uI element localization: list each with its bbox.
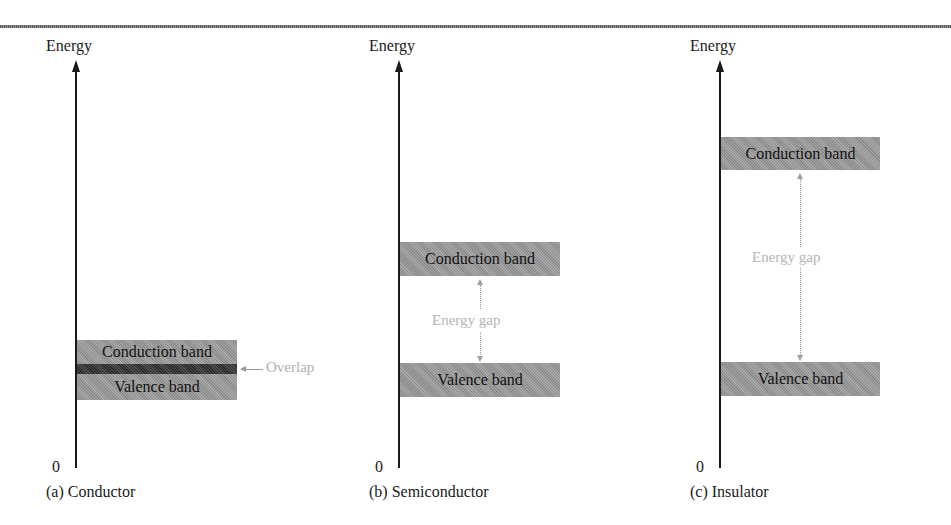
gap-dotted-line (800, 179, 801, 357)
origin-label: 0 (375, 458, 383, 476)
gap-arrow-down-icon (797, 355, 803, 361)
energy-axis-label: Energy (369, 37, 415, 55)
caption-insulator: (c) Insulator (690, 483, 769, 501)
origin-label: 0 (52, 458, 60, 476)
energy-axis-label: Energy (690, 37, 736, 55)
caption-conductor: (a) Conductor (46, 483, 135, 501)
energy-gap-label: Energy gap (432, 310, 500, 331)
top-rule (0, 25, 951, 28)
conduction-band: Conduction band (400, 242, 560, 276)
origin-label: 0 (696, 458, 704, 476)
conduction-band: Conduction band (77, 340, 237, 364)
conduction-band: Conduction band (721, 137, 880, 170)
caption-semiconductor: (b) Semiconductor (369, 483, 489, 501)
overlap-region (77, 364, 237, 374)
overlap-label: Overlap (266, 359, 314, 376)
gap-arrow-down-icon (477, 356, 483, 362)
energy-axis-label: Energy (46, 37, 92, 55)
valence-band: Valence band (400, 363, 560, 397)
energy-gap-label: Energy gap (752, 247, 820, 268)
valence-band: Valence band (721, 362, 880, 396)
valence-band: Valence band (77, 374, 237, 400)
overlap-pointer-line (245, 369, 263, 370)
energy-axis (75, 70, 77, 468)
band-block-conductor: Conduction band Valence band (77, 340, 237, 400)
energy-axis (719, 70, 721, 468)
